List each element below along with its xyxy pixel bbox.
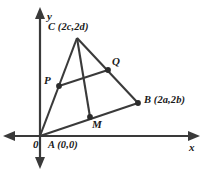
point-label-a: A (0,0) xyxy=(48,140,78,151)
point-dot-Q xyxy=(105,67,111,73)
diagram-canvas xyxy=(0,0,210,173)
y-axis-arrow-up xyxy=(35,7,45,19)
x-axis-arrow-left xyxy=(3,131,15,141)
point-label-q: Q xyxy=(112,56,120,67)
point-dot-P xyxy=(56,83,62,89)
y-axis-arrow-down xyxy=(35,157,45,169)
point-label-c: C (2c,2d) xyxy=(48,22,89,33)
point-label-p: P xyxy=(44,75,51,86)
point-dot-B xyxy=(135,100,141,106)
geometry-diagram: y x C (2c,2d) B (2a,2b) A (0,0) 0 P Q M xyxy=(0,0,210,173)
triangle-sides xyxy=(40,38,138,136)
origin-label: 0 xyxy=(33,139,39,150)
point-label-m: M xyxy=(92,119,102,130)
x-axis-arrow-right xyxy=(188,131,200,141)
interior-segments xyxy=(59,38,108,117)
point-label-b: B (2a,2b) xyxy=(144,95,185,106)
x-axis-label: x xyxy=(189,142,195,153)
